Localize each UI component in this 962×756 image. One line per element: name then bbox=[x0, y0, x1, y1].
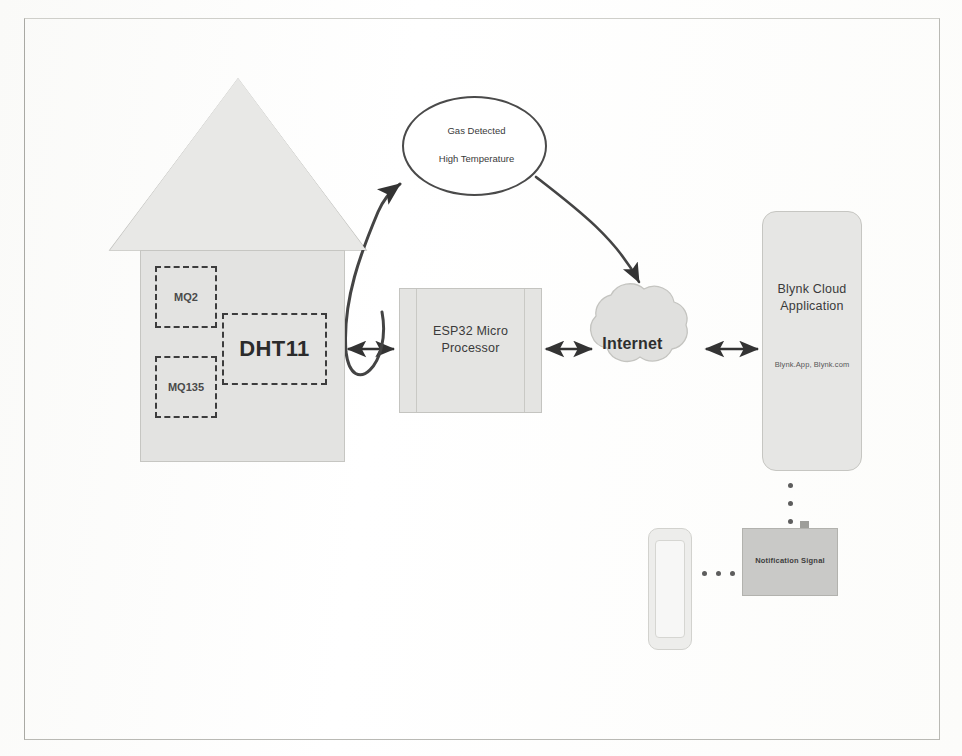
sensor-mq135-label: MQ135 bbox=[168, 381, 204, 393]
sensor-dht11-label: DHT11 bbox=[239, 336, 309, 362]
alert-gas-detected-label: Gas Detected bbox=[404, 125, 549, 136]
alert-ellipse-node[interactable]: Gas Detected High Temperature bbox=[402, 96, 547, 196]
sensor-node-mq2[interactable]: MQ2 bbox=[155, 266, 217, 328]
sensor-mq2-label: MQ2 bbox=[174, 291, 198, 303]
dotted-connector-dot bbox=[702, 571, 707, 576]
connector-alert-internet bbox=[536, 177, 639, 282]
sensor-node-mq135[interactable]: MQ135 bbox=[155, 356, 217, 418]
house-roof bbox=[110, 78, 366, 250]
dotted-connector-dot bbox=[716, 571, 721, 576]
dotted-connector-dot bbox=[788, 501, 793, 506]
alert-high-temperature-label: High Temperature bbox=[404, 153, 549, 164]
notification-label: Notification Signal bbox=[742, 556, 838, 566]
internet-label: Internet bbox=[571, 333, 694, 355]
dotted-connector-dot bbox=[788, 483, 793, 488]
blynk-cloud-url: Blynk.App, Blynk.com bbox=[762, 360, 862, 370]
esp32-label: ESP32 Micro Processor bbox=[399, 323, 542, 357]
dotted-connector-dot bbox=[788, 519, 793, 524]
blynk-cloud-node[interactable] bbox=[762, 211, 862, 471]
smartphone-screen bbox=[655, 540, 685, 638]
dotted-connector-dot bbox=[730, 571, 735, 576]
sensor-node-dht11[interactable]: DHT11 bbox=[222, 313, 327, 385]
blynk-cloud-title: Blynk Cloud Application bbox=[762, 281, 862, 315]
